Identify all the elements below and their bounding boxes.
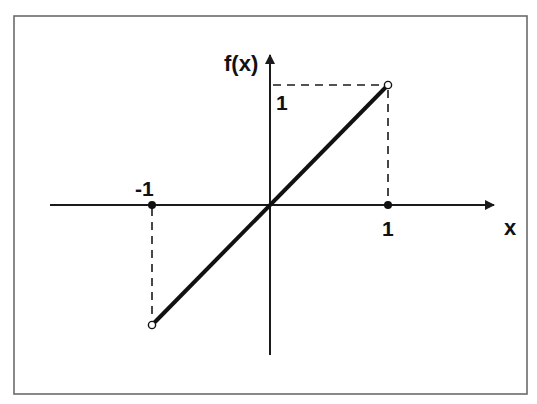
- x-axis-point-neg1: [148, 201, 156, 209]
- x-axis-point-pos1: [384, 201, 392, 209]
- x-tick-label-pos1: 1: [382, 217, 394, 240]
- y-tick-label-pos1: 1: [276, 91, 288, 114]
- y-axis-label: f(x): [224, 51, 258, 76]
- open-endpoint-bottom-left: [148, 321, 155, 328]
- x-tick-label-neg1: -1: [135, 177, 154, 200]
- x-axis-label: x: [504, 215, 517, 240]
- open-endpoint-top-right: [384, 81, 391, 88]
- graph-canvas: f(x) x -1 1 1: [0, 0, 537, 404]
- function-graph-figure: f(x) x -1 1 1: [0, 0, 537, 404]
